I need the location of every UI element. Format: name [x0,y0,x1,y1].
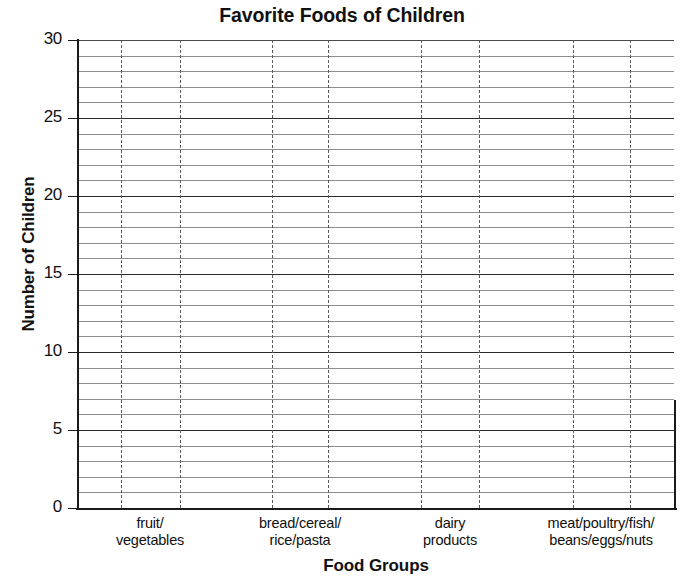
gridline-major [78,430,674,431]
gridline-minor [78,87,674,88]
gridline-minor [78,336,674,337]
y-tick-label: 5 [24,419,62,439]
y-tick-label: 25 [24,107,62,127]
gridline-minor [78,446,674,447]
gridline-minor [78,227,674,228]
y-tick-label: 0 [24,497,62,517]
y-tick-mark [68,508,78,509]
category-band-separator [630,40,631,508]
gridline-minor [78,461,674,462]
gridline-minor [78,414,674,415]
x-axis-title: Food Groups [78,556,674,576]
gridline-major [78,274,674,275]
category-band-separator [272,40,273,508]
category-band-separator [421,40,422,508]
y-tick-mark [68,352,78,353]
y-tick-mark [68,274,78,275]
category-band-separator [573,40,574,508]
gridline-minor [78,477,674,478]
gridline-major [78,196,674,197]
gridline-minor [78,71,674,72]
gridline-minor [78,243,674,244]
gridline-minor [78,321,674,322]
gridline-minor [78,290,674,291]
x-category-label: meat/poultry/fish/beans/eggs/nuts [501,515,684,549]
category-band-separator [180,40,181,508]
y-tick-mark [68,40,78,41]
y-tick-label: 15 [24,263,62,283]
gridline-minor [78,399,674,400]
y-tick-mark [68,118,78,119]
plot-right-edge [674,400,676,510]
gridline-minor [78,149,674,150]
y-tick-label: 20 [24,185,62,205]
gridline-minor [78,368,674,369]
y-tick-mark [68,430,78,431]
y-tick-mark [68,196,78,197]
x-category-label-line: meat/poultry/fish/ [501,515,684,532]
gridline-major [78,118,674,119]
y-tick-label: 30 [24,29,62,49]
gridline-minor [78,383,674,384]
gridline-minor [78,134,674,135]
gridline-major [78,40,674,41]
gridline-major [78,352,674,353]
y-tick-label: 10 [24,341,62,361]
gridline-minor [78,492,674,493]
gridline-minor [78,258,674,259]
gridline-minor [78,56,674,57]
plot-area [78,40,674,508]
gridline-minor [78,102,674,103]
x-axis-line [76,508,677,510]
category-band-separator [121,40,122,508]
gridline-minor [78,180,674,181]
gridline-minor [78,305,674,306]
gridline-minor [78,212,674,213]
category-band-separator [328,40,329,508]
chart-figure: Favorite Foods of Children Number of Chi… [0,0,684,583]
chart-title: Favorite Foods of Children [0,4,684,27]
gridline-minor [78,165,674,166]
x-category-label-line: beans/eggs/nuts [501,532,684,549]
category-band-separator [479,40,480,508]
